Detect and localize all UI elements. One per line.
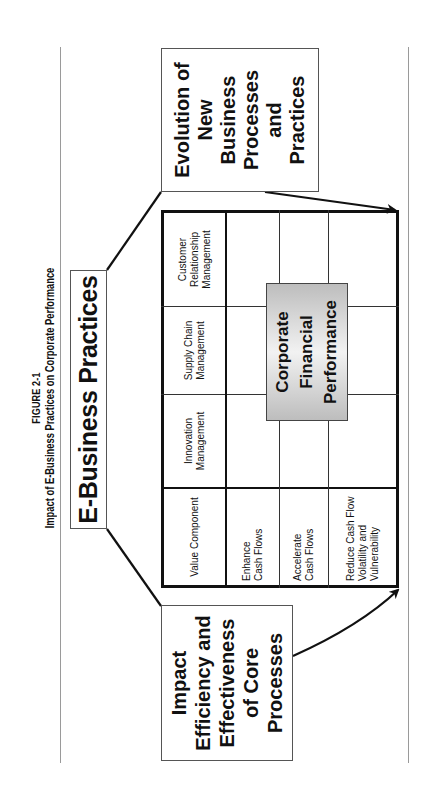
header-supply-chain-management: Supply Chain Management bbox=[164, 307, 225, 394]
impact-efficiency-box: Impact Efficiency and Effectiveness of C… bbox=[161, 605, 293, 761]
evolution-line-3: Business bbox=[217, 76, 240, 165]
evolution-line-6: Practices bbox=[286, 76, 309, 165]
impact-line-4: of Core bbox=[239, 648, 263, 718]
corp-line-3: Performance bbox=[319, 300, 343, 404]
evolution-line-4: Processes bbox=[240, 70, 263, 170]
row-reduce-cash-flow-volatility: Reduce Cash Flow Volatility and Vulnerab… bbox=[329, 489, 396, 585]
evolution-line-5: and bbox=[263, 102, 286, 138]
corp-line-2: Financial bbox=[295, 300, 319, 404]
header-value-component: Value Component bbox=[164, 489, 225, 585]
evolution-line-2: New bbox=[194, 99, 217, 140]
corp-line-1: Corporate bbox=[271, 300, 295, 404]
corporate-financial-performance-box: Corporate Financial Performance bbox=[266, 283, 348, 421]
impact-line-3: Effectiveness bbox=[215, 619, 239, 748]
evolution-line-1: Evolution of bbox=[171, 62, 194, 178]
impact-line-1: Impact bbox=[167, 651, 191, 715]
row-enhance-cash-flows: Enhance Cash Flows bbox=[227, 489, 279, 585]
row-accelerate-cash-flows: Accelerate Cash Flows bbox=[280, 489, 328, 585]
evolution-box: Evolution of New Business Processes and … bbox=[161, 48, 319, 192]
impact-line-2: Efficiency and bbox=[191, 615, 215, 751]
e-business-practices-box: E-Business Practices bbox=[70, 270, 107, 529]
header-innovation-management: Innovation Management bbox=[164, 395, 225, 487]
impact-line-5: Processes bbox=[263, 633, 287, 733]
header-customer-relationship-management: Customer Relationship Management bbox=[164, 213, 225, 306]
figure-page: FIGURE 2-1 Impact of E-Business Practice… bbox=[0, 0, 428, 796]
